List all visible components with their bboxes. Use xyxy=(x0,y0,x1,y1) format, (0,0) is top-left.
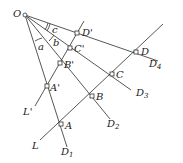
label-A: A xyxy=(64,120,72,131)
point-C xyxy=(110,72,114,76)
angle-arc-c-inner xyxy=(45,23,48,30)
ray-OD1 xyxy=(25,15,67,147)
label-O: O xyxy=(13,8,21,19)
point-D xyxy=(134,50,138,54)
labels: O D' C' B' A' D C B A D4 D3 D2 D1 L L' c… xyxy=(13,8,162,159)
label-C: C xyxy=(116,69,124,80)
label-D4: D4 xyxy=(148,58,162,71)
point-B xyxy=(90,94,94,98)
angle-label-c: c xyxy=(52,24,58,35)
point-A-prime xyxy=(45,84,49,88)
label-C-prime: C' xyxy=(74,43,84,54)
angle-label-a: a xyxy=(38,41,44,52)
label-A-prime: A' xyxy=(49,82,60,93)
geometry-diagram: O D' C' B' A' D C B A D4 D3 D2 D1 L L' c… xyxy=(0,0,183,163)
label-D: D xyxy=(140,46,149,57)
angle-label-b: b xyxy=(53,37,59,48)
label-D2: D2 xyxy=(106,118,120,131)
label-B: B xyxy=(95,91,103,102)
label-L-prime: L' xyxy=(22,106,32,117)
point-B-prime xyxy=(58,61,62,65)
label-L: L xyxy=(31,140,39,151)
point-A xyxy=(59,122,63,126)
label-D1: D1 xyxy=(60,146,74,159)
label-B-prime: B' xyxy=(63,59,74,70)
point-O xyxy=(23,13,27,17)
point-C-prime xyxy=(68,46,72,50)
label-D-prime: D' xyxy=(81,27,93,38)
point-D-prime xyxy=(75,31,79,35)
label-D3: D3 xyxy=(135,87,149,100)
